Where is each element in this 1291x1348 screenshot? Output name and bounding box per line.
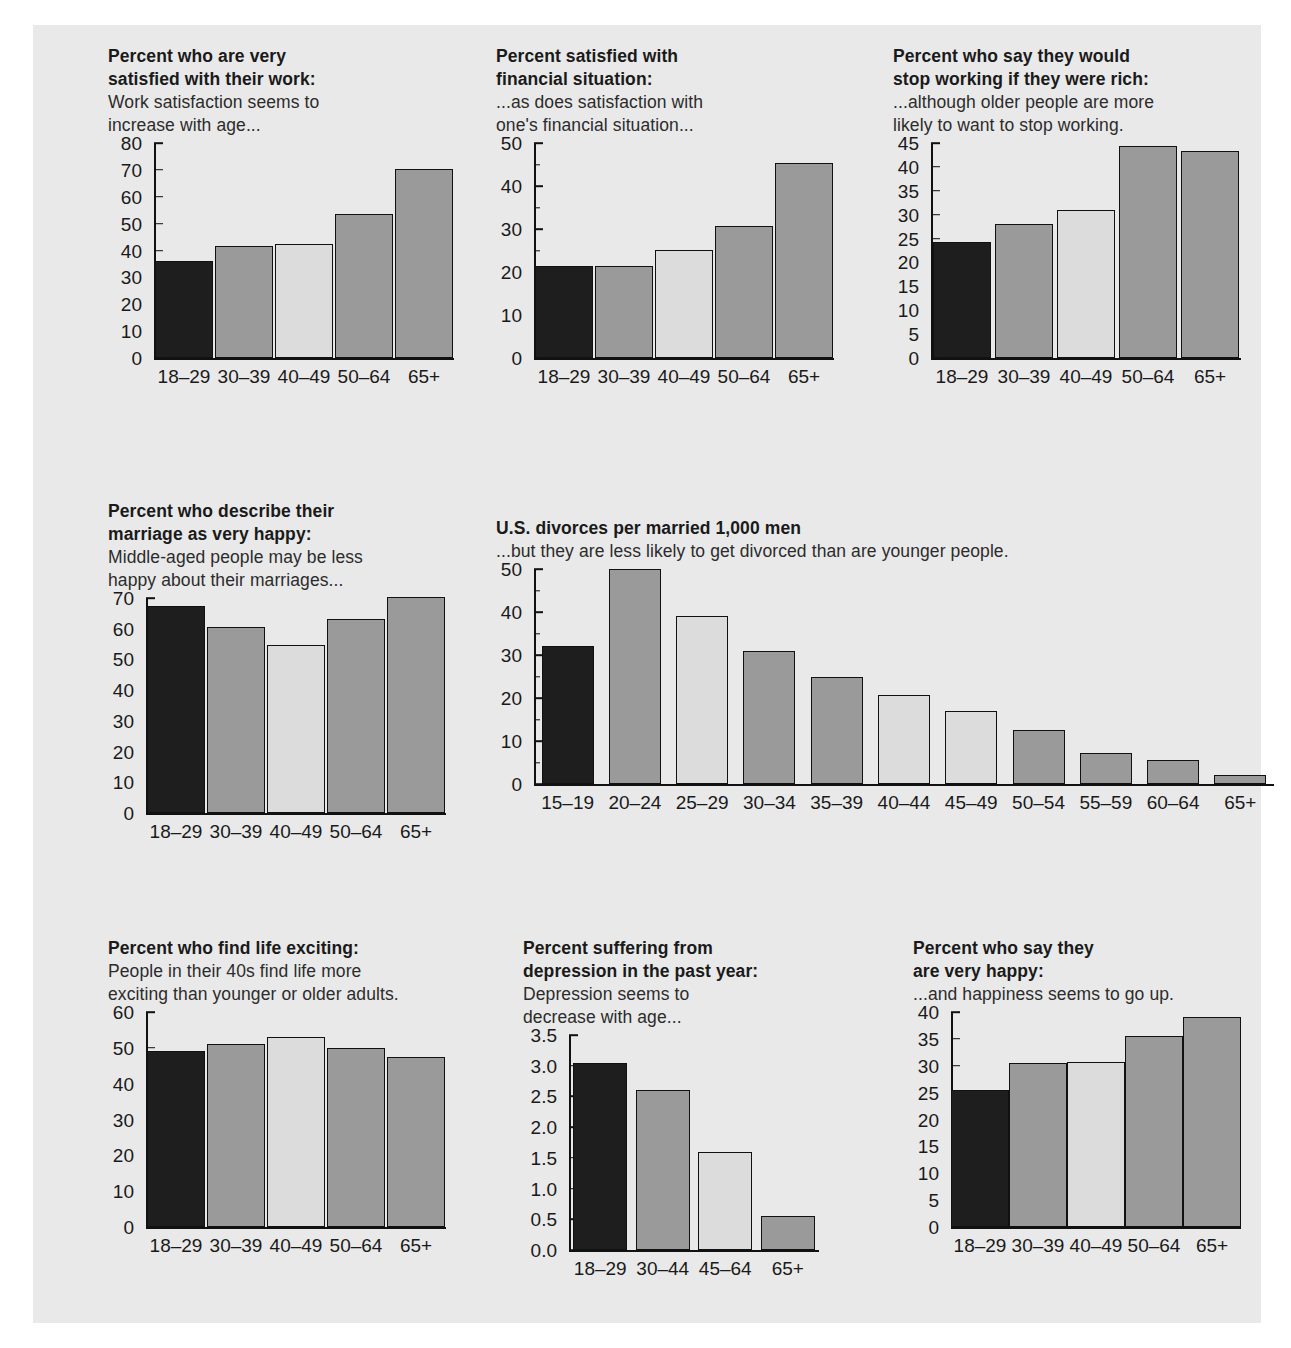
chart-us-divorces: U.S. divorces per married 1,000 men...bu… (496, 517, 1284, 818)
plot-area: 0.00.51.01.52.02.53.03.518–2930–4445–646… (523, 1035, 821, 1284)
y-tick-major (534, 611, 543, 613)
y-tick-major (154, 196, 163, 198)
y-tick-minor (534, 250, 540, 251)
chart-title-block: Percent who describe their marriage as v… (108, 500, 448, 592)
bar (775, 163, 833, 358)
x-axis-label: 65+ (751, 1258, 826, 1279)
x-axis-label: 65+ (1177, 1235, 1247, 1256)
y-tick-major (931, 190, 940, 192)
chart-life-exciting: Percent who find life exciting:People in… (108, 937, 488, 1261)
plot-area: 0102030405060708018–2930–3940–4950–6465+ (108, 143, 456, 392)
y-tick-label: 20 (911, 1110, 939, 1129)
y-tick-major (931, 166, 940, 168)
bar (1183, 1017, 1241, 1227)
chart-subtitle: People in their 40s find life more excit… (108, 960, 488, 1006)
y-tick-label: 60 (106, 1003, 134, 1022)
y-tick-minor (534, 762, 540, 763)
y-tick-label: 50 (106, 214, 142, 233)
bar (215, 246, 273, 358)
y-tick-label: 70 (106, 589, 134, 608)
x-axis-label: 65+ (1201, 792, 1280, 813)
y-tick-minor (534, 207, 540, 208)
bar (327, 1048, 385, 1227)
bar (945, 711, 997, 784)
bar (387, 597, 445, 813)
y-tick-label: 60 (106, 619, 134, 638)
y-tick-label: 20 (891, 253, 919, 272)
x-axis-label: 65+ (1173, 366, 1247, 387)
y-tick-label: 30 (494, 646, 522, 665)
y-tick-label: 0 (106, 1218, 134, 1237)
chart-subtitle: ...although older people are more likely… (893, 91, 1253, 137)
chart-title-block: Percent who say they would stop working … (893, 45, 1253, 137)
y-tick-major (154, 250, 163, 252)
plot-area: 051015202530354018–2930–3940–4950–6465+ (913, 1012, 1243, 1261)
bar (573, 1063, 627, 1250)
x-axis-line (569, 1250, 819, 1252)
y-tick-label: 20 (106, 295, 142, 314)
chart-title: Percent who are very satisfied with thei… (108, 45, 438, 91)
y-tick-label: 1.0 (521, 1179, 557, 1198)
x-axis-line (146, 813, 446, 815)
y-tick-label: 10 (494, 732, 522, 751)
bar (1147, 760, 1199, 784)
y-tick-label: 35 (891, 181, 919, 200)
y-tick-label: 1.5 (521, 1148, 557, 1167)
bar (1125, 1036, 1183, 1227)
bar (1214, 775, 1266, 784)
chart-title-block: Percent suffering from depression in the… (523, 937, 853, 1029)
y-tick-major (146, 1011, 155, 1013)
y-tick-label: 40 (911, 1003, 939, 1022)
bar (1057, 210, 1115, 358)
bar (878, 695, 930, 784)
bar (327, 619, 385, 813)
y-tick-label: 2.5 (521, 1087, 557, 1106)
y-tick-major (534, 568, 543, 570)
bar (698, 1152, 752, 1250)
y-tick-major (931, 238, 940, 240)
chart-title-block: Percent who are very satisfied with thei… (108, 45, 438, 137)
chart-happy-marriage: Percent who describe their marriage as v… (108, 500, 456, 847)
bar (207, 627, 265, 813)
chart-subtitle: Depression seems to decrease with age... (523, 983, 853, 1029)
y-tick-major (146, 1047, 155, 1049)
y-tick-label: 20 (494, 689, 522, 708)
y-tick-label: 0 (494, 775, 522, 794)
bar (155, 261, 213, 358)
chart-subtitle: Work satisfaction seems to increase with… (108, 91, 438, 137)
chart-work-satisfaction: Percent who are very satisfied with thei… (108, 45, 464, 392)
chart-title: U.S. divorces per married 1,000 men (496, 517, 1196, 540)
bar (1067, 1062, 1125, 1227)
bar (995, 224, 1053, 358)
bar (715, 226, 773, 358)
chart-subtitle: ...but they are less likely to get divor… (496, 540, 1196, 563)
bar (655, 250, 713, 358)
x-axis-line (951, 1227, 1241, 1229)
y-tick-label: 0.0 (521, 1241, 557, 1260)
chart-title: Percent who find life exciting: (108, 937, 488, 960)
bar (542, 646, 594, 784)
chart-title: Percent who describe their marriage as v… (108, 500, 448, 546)
y-tick-major (534, 142, 543, 144)
bar (609, 569, 661, 784)
y-tick-label: 10 (494, 306, 522, 325)
bar (933, 242, 991, 358)
bar (267, 645, 325, 813)
bar (1009, 1063, 1067, 1227)
bar (335, 214, 393, 358)
y-tick-label: 10 (106, 1182, 134, 1201)
bar (636, 1090, 690, 1250)
y-tick-label: 80 (106, 134, 142, 153)
bar (1181, 151, 1239, 358)
x-axis-line (154, 358, 454, 360)
bar (267, 1037, 325, 1227)
y-tick-major (951, 1038, 960, 1040)
y-tick-label: 40 (106, 1074, 134, 1093)
y-tick-label: 20 (106, 742, 134, 761)
y-tick-label: 25 (891, 229, 919, 248)
y-tick-label: 30 (494, 220, 522, 239)
y-tick-minor (534, 719, 540, 720)
y-tick-major (154, 223, 163, 225)
y-tick-major (931, 142, 940, 144)
x-axis-line (146, 1227, 446, 1229)
